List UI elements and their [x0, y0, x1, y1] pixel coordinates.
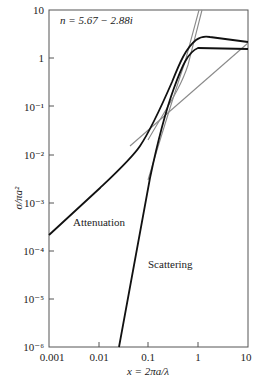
- x-tick-labels: 0.001 0.01 0.1 1 10: [40, 351, 252, 363]
- asymptote-lines: [130, 10, 248, 180]
- y-tick-label: 10: [33, 4, 45, 16]
- y-tick-label: 10⁻¹: [24, 101, 44, 113]
- y-tick-label: 10⁻⁴: [23, 245, 44, 257]
- x-tick-label: 0.01: [89, 351, 108, 363]
- y-tick-label: 10⁻³: [24, 197, 45, 209]
- refractive-index-annotation: n = 5.67 − 2.88i: [60, 14, 133, 26]
- y-tick-label: 10⁻⁵: [23, 293, 44, 305]
- y-tick-label: 10⁻²: [24, 149, 45, 161]
- absorption-asymptote-line: [130, 43, 248, 146]
- x-tick-label: 1: [195, 351, 201, 363]
- y-axis-ticks: [49, 58, 54, 299]
- attenuation-label: Attenuation: [73, 216, 125, 228]
- y-tick-labels: 10 1 10⁻¹ 10⁻² 10⁻³ 10⁻⁴ 10⁻⁵ 10⁻⁶: [23, 4, 44, 353]
- scattering-label: Scattering: [148, 258, 193, 270]
- curves: [49, 37, 248, 347]
- y-axis-label: σ/πa²: [12, 186, 24, 209]
- x-axis-ticks: [99, 342, 198, 347]
- scattering-curve: [119, 48, 248, 347]
- chart: 10 1 10⁻¹ 10⁻² 10⁻³ 10⁻⁴ 10⁻⁵ 10⁻⁶ 0.001…: [0, 0, 263, 387]
- x-tick-label: 0.001: [40, 351, 65, 363]
- attenuation-curve: [49, 37, 248, 235]
- x-axis-label: x = 2πa/λ: [126, 365, 169, 377]
- y-tick-label: 1: [39, 52, 45, 64]
- x-tick-label: 0.1: [141, 351, 155, 363]
- x-tick-label: 10: [241, 351, 253, 363]
